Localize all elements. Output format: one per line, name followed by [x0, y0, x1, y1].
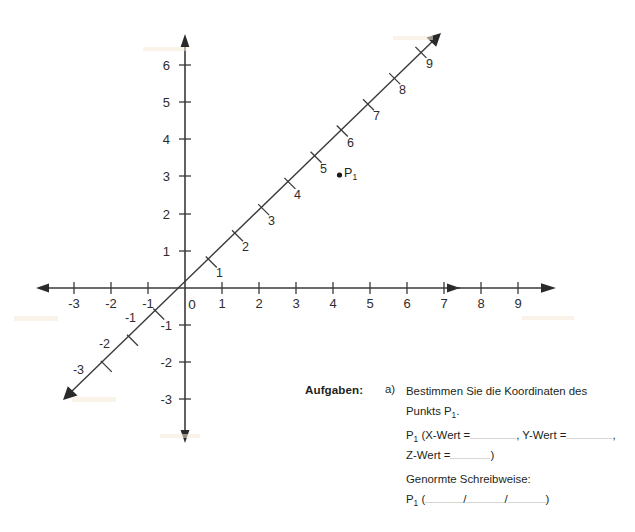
norm-slash-2: / — [504, 493, 507, 505]
z-tick-label: -2 — [99, 337, 110, 351]
coord-x-label: (X-Wert = — [421, 429, 470, 441]
y-axis-arrow-up — [181, 34, 190, 47]
z-tick-label: 3 — [268, 214, 275, 228]
x-tick-label: 8 — [477, 296, 484, 311]
task-enumerator: a) — [385, 384, 395, 395]
x-axis-arrow-left — [36, 284, 49, 293]
x-tick-label: 1 — [218, 296, 225, 311]
coord-close-paren: ) — [490, 449, 494, 461]
coord-p-sub: 1 — [414, 434, 419, 444]
y-tick-label: -1 — [160, 318, 172, 333]
x-tick-label: 6 — [403, 296, 410, 311]
x-tick-label: -2 — [105, 296, 117, 311]
norm-p-sub: 1 — [414, 498, 419, 508]
z-tick-label: -1 — [125, 311, 136, 325]
z-axis-labels: 1 2 3 4 5 6 7 8 9 -1 -2 -3 — [73, 57, 433, 377]
y-tick-label: -3 — [160, 392, 172, 407]
norm-notation-line: P1 (//) — [406, 492, 631, 507]
coord-p-label: P — [406, 429, 414, 441]
y-axis-labels: 6 5 4 3 2 1 -1 -2 -3 — [160, 58, 172, 407]
z-axis-group — [63, 33, 441, 400]
point-p1-marker — [337, 172, 342, 177]
z-tick-label: -3 — [73, 363, 84, 377]
z-tick-label: 9 — [426, 57, 433, 71]
x-tick-label: 9 — [514, 296, 521, 311]
norm-close-paren: ) — [546, 493, 550, 505]
norm-slash-1: / — [463, 493, 466, 505]
task-line-1: Bestimmen Sie die Koordinaten des — [406, 384, 631, 399]
z-axis-ticks — [101, 47, 427, 372]
x-axis-extension — [455, 282, 556, 294]
z-tick-label: 8 — [399, 83, 406, 97]
y-tick-label: 5 — [163, 95, 170, 110]
y-tick-label: 1 — [163, 244, 170, 259]
x-tick-label: 4 — [329, 296, 336, 311]
norm-open-paren: ( — [421, 493, 425, 505]
task-line-2: Punkts P1. — [406, 404, 631, 419]
z-tick-label: 6 — [347, 136, 354, 150]
x-axis-arrow-end — [541, 283, 556, 293]
z-axis-line — [70, 37, 437, 393]
z-tick-label: 5 — [320, 162, 327, 176]
coord-line-2: Z-Wert =) — [406, 448, 631, 463]
x-tick-label: -3 — [68, 296, 80, 311]
origin-label: 0 — [188, 297, 196, 312]
norm-y-blank[interactable] — [466, 502, 504, 503]
x-wert-blank[interactable] — [470, 438, 516, 439]
y-tick-label: -2 — [160, 355, 172, 370]
x-axis-labels: -3 -2 -1 0 1 2 3 4 5 6 7 8 9 — [68, 296, 521, 312]
y-tick-label: 6 — [163, 58, 170, 73]
task-line-2-period: . — [456, 405, 459, 417]
y-tick-label: 4 — [163, 132, 170, 147]
z-tick-label: 7 — [373, 109, 380, 123]
y-axis-group — [179, 34, 191, 443]
z-tick-label: 2 — [242, 240, 249, 254]
y-tick-label: 2 — [163, 207, 170, 222]
coord-z-label: Z-Wert = — [406, 449, 450, 461]
norm-p-label: P — [406, 493, 414, 505]
x-tick-label: -1 — [142, 296, 154, 311]
y-tick-label: 3 — [163, 169, 170, 184]
coord-comma: , — [612, 429, 615, 441]
norm-z-blank[interactable] — [508, 502, 546, 503]
coord-line-1: P1 (X-Wert =, Y-Wert =, — [406, 428, 631, 443]
z-wert-blank[interactable] — [450, 458, 490, 459]
task-line-2-text: Punkts P — [406, 405, 452, 417]
x-tick-label: 2 — [255, 296, 262, 311]
x-tick-label: 3 — [292, 296, 299, 311]
y-wert-blank[interactable] — [566, 438, 612, 439]
z-tick-label: 4 — [294, 188, 301, 202]
coord-y-label: , Y-Wert = — [516, 429, 566, 441]
task-body: Bestimmen Sie die Koordinaten des Punkts… — [406, 384, 631, 512]
tasks-heading: Aufgaben: — [305, 384, 363, 396]
y-axis-arrow-down — [181, 430, 190, 443]
norm-notation-label: Genormte Schreibweise: — [406, 472, 631, 487]
task-line-2-sub: 1 — [452, 410, 457, 420]
task-line-1-text: Bestimmen Sie die Koordinaten des — [406, 385, 587, 397]
point-p1-label: P1 — [344, 166, 357, 180]
x-axis-group — [36, 282, 460, 294]
z-tick-label: 1 — [216, 266, 223, 280]
norm-x-blank[interactable] — [425, 502, 463, 503]
x-tick-label: 7 — [440, 296, 447, 311]
x-tick-label: 5 — [366, 296, 373, 311]
